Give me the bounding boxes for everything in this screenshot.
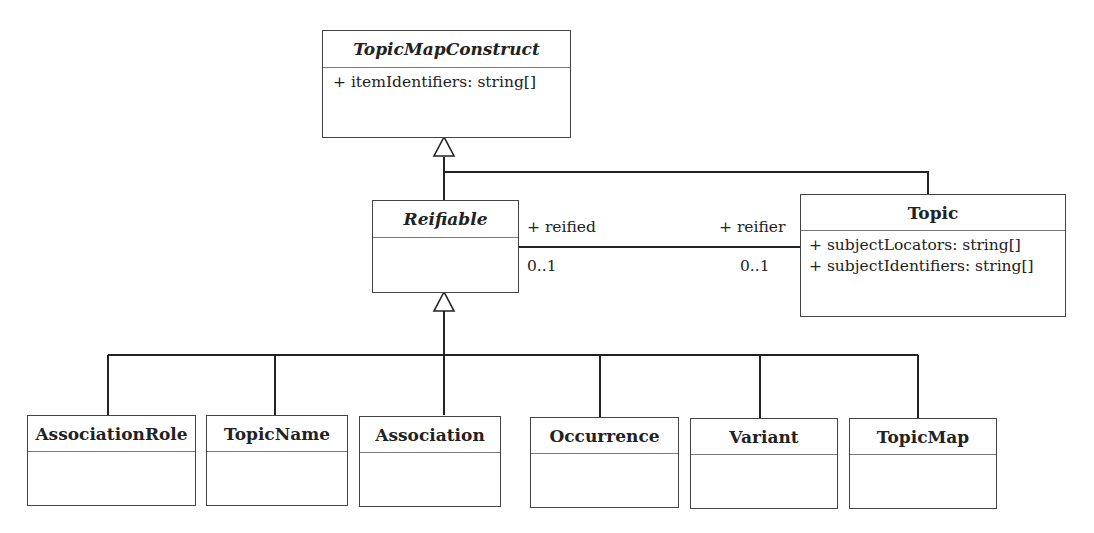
class-name: TopicMap (850, 419, 996, 455)
class-name: Reifiable (373, 201, 518, 238)
class-name: Association (360, 417, 500, 453)
class-association[interactable]: Association (359, 416, 501, 507)
association-role-reified: + reified (527, 218, 596, 236)
class-topic-name[interactable]: TopicName (206, 415, 348, 506)
class-reifiable[interactable]: Reifiable (372, 200, 519, 293)
class-attributes: + itemIdentifiers: string[] (323, 68, 570, 93)
class-name: Variant (691, 419, 837, 455)
generalization-arrow-icon (434, 292, 454, 311)
class-occurrence[interactable]: Occurrence (530, 417, 679, 508)
class-name: Occurrence (531, 418, 678, 454)
class-name: AssociationRole (28, 416, 195, 452)
class-name: Topic (801, 195, 1065, 231)
generalization-arrow-icon (434, 137, 454, 156)
association-multiplicity-left: 0..1 (527, 257, 557, 275)
class-topic-map[interactable]: TopicMap (849, 418, 997, 509)
class-name: TopicName (207, 416, 347, 452)
attribute: + subjectIdentifiers: string[] (809, 256, 1065, 277)
association-multiplicity-right: 0..1 (740, 257, 770, 275)
class-name: TopicMapConstruct (323, 31, 570, 68)
class-variant[interactable]: Variant (690, 418, 838, 509)
class-attributes: + subjectLocators: string[] + subjectIde… (801, 231, 1065, 277)
generalization-line-topic (444, 172, 928, 194)
class-association-role[interactable]: AssociationRole (27, 415, 196, 506)
class-topic[interactable]: Topic + subjectLocators: string[] + subj… (800, 194, 1066, 317)
association-role-reifier: + reifier (719, 218, 785, 236)
class-topic-map-construct[interactable]: TopicMapConstruct + itemIdentifiers: str… (322, 30, 571, 138)
attribute: + subjectLocators: string[] (809, 235, 1065, 256)
attribute: + itemIdentifiers: string[] (333, 72, 570, 93)
